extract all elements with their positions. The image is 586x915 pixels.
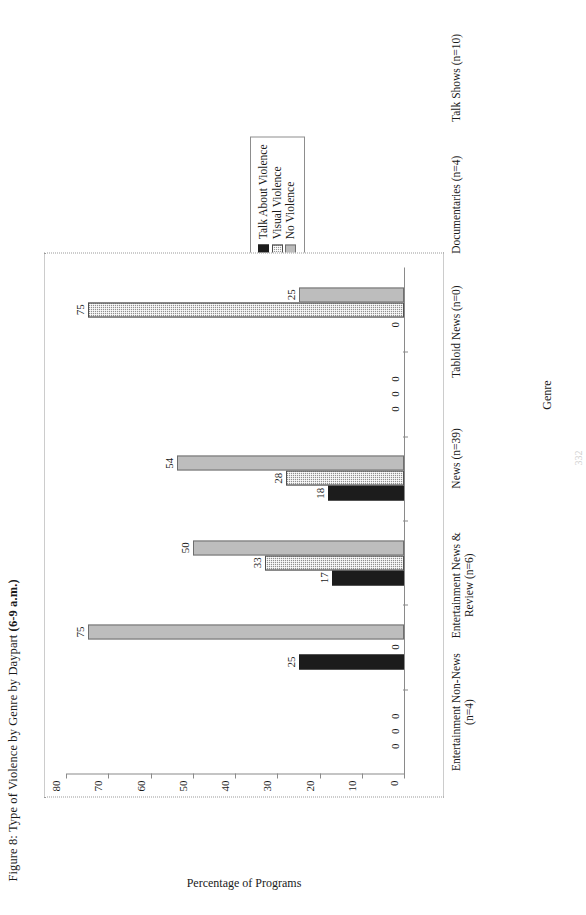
plot-frame: 01020304050607080 0002507517335018285400… [44, 252, 444, 797]
figure-title-daypart: (6-9 a.m.) [6, 579, 20, 631]
bar-slot: 0 [67, 723, 404, 738]
bar-slot: 54 [67, 455, 404, 470]
bar-slot: 18 [67, 485, 404, 500]
bar-value-label: 0 [390, 728, 401, 734]
bar-slot: 0 [67, 738, 404, 753]
x-axis-category-label: Entertainment Non-News (n=4) [450, 648, 528, 775]
bar-groups: 0002507517335018285400007525 [67, 267, 404, 773]
bar[interactable]: 25 [299, 654, 404, 669]
bar[interactable]: 54 [177, 455, 404, 470]
bar[interactable]: 50 [193, 540, 404, 555]
x-axis-category-label: News (n=39) [450, 395, 528, 522]
y-axis-tick-label: 50 [177, 780, 188, 798]
bar-slot: 17 [67, 570, 404, 585]
bar-value-label: 75 [75, 304, 86, 315]
y-axis-tick [235, 773, 236, 778]
bar-value-label: 0 [390, 391, 401, 397]
y-axis-tick [193, 773, 194, 778]
x-axis-category-labels: Entertainment Non-News (n=4)Entertainmen… [450, 14, 528, 775]
bar-value-label: 50 [180, 542, 191, 553]
page-number: 332 [573, 450, 584, 465]
bar[interactable]: 18 [328, 485, 404, 500]
bar-slot: 33 [67, 555, 404, 570]
bar-value-label: 17 [319, 572, 330, 583]
bar-slot: 0 [67, 401, 404, 416]
figure-page: Figure 8: Type of Violence by Genre by D… [0, 0, 586, 915]
bar[interactable]: 17 [332, 570, 404, 585]
y-axis-tick [66, 773, 67, 778]
legend-item-talk-about-violence: Talk About Violence [258, 144, 270, 255]
y-axis-title: Percentage of Programs [44, 875, 444, 891]
bar-slot: 25 [67, 654, 404, 669]
bar[interactable]: 33 [265, 555, 404, 570]
rotated-figure-stage: Figure 8: Type of Violence by Genre by D… [0, 0, 586, 915]
bar-slot: 28 [67, 470, 404, 485]
legend-label-no-violence: No Violence [285, 181, 297, 239]
legend-label-visual-violence: Visual Violence [272, 166, 284, 239]
bar-value-label: 33 [252, 557, 263, 568]
legend-item-visual-violence: Visual Violence [272, 144, 284, 255]
x-axis-category-label: Entertainment News & Review (n=6) [450, 521, 528, 648]
bar-value-label: 0 [390, 713, 401, 719]
bar-value-label: 28 [273, 472, 284, 483]
y-axis-tick-label: 20 [304, 780, 315, 798]
bar-slot: 25 [67, 287, 404, 302]
chart-legend: Talk About Violence Visual Violence No V… [250, 136, 305, 261]
y-axis-tick-label: 60 [135, 780, 146, 798]
y-axis-tick [108, 773, 109, 778]
bar-slot: 0 [67, 639, 404, 654]
y-axis-tick-label: 10 [346, 780, 357, 798]
bar-group: 000 [67, 689, 404, 773]
y-axis-tick [320, 773, 321, 778]
bar-value-label: 0 [390, 644, 401, 650]
y-axis-tick [277, 773, 278, 778]
figure-title-prefix: Figure 8: Type of Violence by Genre by D… [6, 631, 20, 881]
bar-group: 25075 [67, 604, 404, 688]
bar-slot: 0 [67, 708, 404, 723]
bar-value-label: 25 [286, 656, 297, 667]
bar[interactable]: 25 [299, 287, 404, 302]
x-axis-category-label: Talk Shows (n=10) [450, 14, 528, 141]
y-axis-tick [362, 773, 363, 778]
bar-slot: 0 [67, 386, 404, 401]
bar-value-label: 75 [75, 626, 86, 637]
bar-slot: 75 [67, 302, 404, 317]
y-axis-tick-label: 0 [389, 780, 400, 798]
bar-group: 000 [67, 351, 404, 435]
y-axis-tick-label: 30 [262, 780, 273, 798]
bar-group: 07525 [67, 267, 404, 351]
bar-group: 182854 [67, 436, 404, 520]
bar[interactable]: 75 [88, 302, 404, 317]
legend-label-talk-about-violence: Talk About Violence [258, 144, 270, 239]
x-axis-title: Genre [540, 14, 555, 775]
bar-value-label: 0 [390, 376, 401, 382]
bar-value-label: 25 [286, 289, 297, 300]
bar-slot: 0 [67, 371, 404, 386]
bar[interactable]: 28 [286, 470, 404, 485]
y-axis-tick [404, 773, 405, 778]
bar-value-label: 18 [315, 487, 326, 498]
y-axis-tick-label: 70 [93, 780, 104, 798]
bar-slot: 0 [67, 317, 404, 332]
figure-title: Figure 8: Type of Violence by Genre by D… [6, 579, 21, 881]
bar-value-label: 0 [390, 321, 401, 327]
bar-value-label: 0 [390, 743, 401, 749]
y-axis-tick-label: 40 [220, 780, 231, 798]
legend-item-no-violence: No Violence [285, 144, 297, 255]
bar-slot: 50 [67, 540, 404, 555]
bar-group: 173350 [67, 520, 404, 604]
bar-slot: 75 [67, 624, 404, 639]
bar-value-label: 0 [390, 406, 401, 412]
bar-value-label: 54 [164, 457, 175, 468]
x-axis-category-label: Tabloid News (n=0) [450, 268, 528, 395]
plot-area: 01020304050607080 0002507517335018285400… [67, 267, 405, 774]
y-axis-tick-label: 80 [51, 780, 62, 798]
y-axis-tick [151, 773, 152, 778]
x-axis-category-label: Documentaries (n=4) [450, 141, 528, 268]
bar[interactable]: 75 [88, 624, 404, 639]
